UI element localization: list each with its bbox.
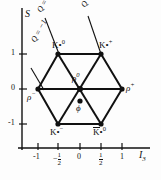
particle-label-rhozero: ρ0 — [72, 72, 80, 83]
particle-label-kstar0: K•0 — [52, 39, 65, 50]
x-tick-label-0.5: 12 — [99, 152, 103, 167]
y-tick-label-1: 1 — [11, 49, 15, 57]
meson-nonet-figure: S I3 -1 −12 0 12 1 1 0 -1 Q = −1 Q = 0 Q… — [0, 0, 161, 180]
x-tick-label-1: 1 — [120, 153, 124, 161]
y-tick-label-0: 0 — [11, 84, 15, 92]
particle-label-kstarminus: K•− — [50, 126, 63, 137]
particle-label-phi: ϕ — [76, 104, 81, 113]
x-tick-label--0.5: −12 — [53, 152, 61, 167]
y-tick-label--1: -1 — [8, 119, 15, 127]
dot-rhominus — [35, 86, 40, 91]
x-tick-label-0: 0 — [77, 153, 81, 161]
dot-kstar0 — [55, 51, 60, 56]
dot-kstarplus — [98, 51, 103, 56]
y-axis-ticks — [19, 54, 27, 124]
dot-rhozero-center — [77, 86, 83, 92]
x-axis-label: I3 — [139, 150, 146, 163]
particle-label-kbarstar0: K•0 — [93, 126, 106, 137]
particle-label-rhominus: ρ− — [27, 91, 36, 102]
particle-label-rhoplus: ρ+ — [126, 82, 135, 93]
y-axis-label: S — [25, 9, 30, 19]
x-axis-ticks — [38, 143, 122, 150]
particle-label-kstarplus: K•+ — [99, 39, 112, 50]
dot-rhoplus — [119, 86, 124, 91]
x-tick-label--1: -1 — [33, 153, 40, 161]
